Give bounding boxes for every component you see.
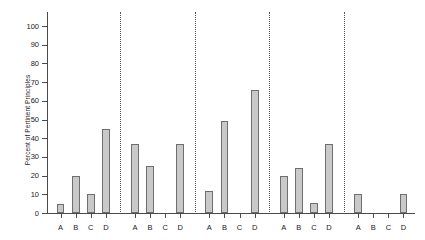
- x-axis-tick-label: B: [148, 224, 153, 232]
- x-axis-tick: [314, 214, 315, 218]
- plot-area: 0102030405060708090100 ABCDABCDABCDABCDA…: [47, 12, 415, 214]
- x-axis-tick-label: A: [132, 224, 137, 232]
- y-axis-tick-label: 90: [31, 41, 39, 49]
- y-axis-tick: 0: [42, 213, 47, 214]
- bar: [146, 166, 154, 213]
- y-axis-tick-label: 0: [35, 210, 39, 218]
- y-axis-tick-label: 40: [31, 135, 39, 143]
- y-axis-tick: 90: [42, 45, 47, 46]
- x-axis-tick: [224, 214, 225, 218]
- y-axis-tick: 70: [42, 82, 47, 83]
- x-axis-tick: [150, 214, 151, 218]
- y-axis-line: [47, 12, 48, 214]
- bar: [131, 144, 139, 213]
- x-axis-tick-label: D: [252, 224, 257, 232]
- x-axis-tick-label: B: [296, 224, 301, 232]
- x-axis-tick: [240, 214, 241, 218]
- x-axis-tick: [135, 214, 136, 218]
- bar-chart: Percent of Pertinent Principles 01020304…: [0, 0, 425, 240]
- bar: [221, 121, 229, 213]
- x-axis-tick-label: C: [162, 224, 167, 232]
- y-axis-tick: 60: [42, 101, 47, 102]
- x-axis-tick-label: B: [73, 224, 78, 232]
- y-axis-tick-label: 80: [31, 60, 39, 68]
- x-axis-tick-label: B: [371, 224, 376, 232]
- x-axis-tick: [91, 214, 92, 218]
- x-axis-tick-label: D: [178, 224, 183, 232]
- x-axis-tick-label: D: [103, 224, 108, 232]
- bar: [176, 144, 184, 213]
- x-axis-tick: [388, 214, 389, 218]
- x-axis-tick-label: C: [386, 224, 391, 232]
- y-axis-tick: 80: [42, 63, 47, 64]
- x-axis-tick: [106, 214, 107, 218]
- y-axis-tick-label: 100: [26, 23, 39, 31]
- x-axis-tick-label: A: [58, 224, 63, 232]
- x-axis-tick: [180, 214, 181, 218]
- x-axis-tick-label: A: [356, 224, 361, 232]
- x-axis-tick: [373, 214, 374, 218]
- bar: [72, 176, 80, 213]
- bar: [310, 203, 318, 213]
- bar: [295, 168, 303, 213]
- x-axis-tick-label: A: [281, 224, 286, 232]
- bar: [57, 204, 65, 213]
- y-axis-tick-label: 50: [31, 116, 39, 124]
- x-axis-tick: [209, 214, 210, 218]
- group-separator: [195, 12, 196, 214]
- x-axis-tick: [165, 214, 166, 218]
- bar: [280, 176, 288, 213]
- y-axis-tick: 50: [42, 120, 47, 121]
- bar: [102, 129, 110, 213]
- x-axis-tick-label: C: [311, 224, 316, 232]
- x-axis-tick-label: B: [222, 224, 227, 232]
- group-separator: [344, 12, 345, 214]
- group-separator: [120, 12, 121, 214]
- x-axis-tick: [329, 214, 330, 218]
- y-axis-tick: 10: [42, 194, 47, 195]
- x-axis-tick: [76, 214, 77, 218]
- y-axis-tick-label: 10: [31, 191, 39, 199]
- x-axis-line: [47, 213, 415, 214]
- y-axis-tick: 100: [42, 26, 47, 27]
- x-axis-tick: [61, 214, 62, 218]
- x-axis-tick-label: C: [88, 224, 93, 232]
- bar: [354, 194, 362, 213]
- bar: [251, 90, 259, 213]
- bar: [205, 191, 213, 213]
- group-separator: [269, 12, 270, 214]
- y-axis-tick: 30: [42, 157, 47, 158]
- bar: [325, 144, 333, 213]
- bar: [400, 194, 408, 213]
- y-axis-tick: 20: [42, 176, 47, 177]
- x-axis-tick: [299, 214, 300, 218]
- x-axis-tick: [255, 214, 256, 218]
- y-axis-tick-label: 30: [31, 154, 39, 162]
- y-axis-tick-label: 60: [31, 98, 39, 106]
- x-axis-tick-label: D: [326, 224, 331, 232]
- y-axis-tick: 40: [42, 138, 47, 139]
- x-axis-tick-label: D: [401, 224, 406, 232]
- y-axis-tick-label: 20: [31, 172, 39, 180]
- y-axis-tick-label: 70: [31, 79, 39, 87]
- x-axis-tick-label: C: [237, 224, 242, 232]
- x-axis-tick: [284, 214, 285, 218]
- x-axis-tick-label: A: [207, 224, 212, 232]
- x-axis-tick: [403, 214, 404, 218]
- x-axis-tick: [358, 214, 359, 218]
- bar: [87, 194, 95, 213]
